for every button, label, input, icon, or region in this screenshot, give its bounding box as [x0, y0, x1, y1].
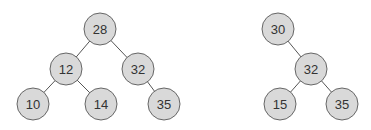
node-label: 14	[94, 97, 108, 112]
tree-node: 12	[50, 53, 82, 85]
node-label: 35	[335, 97, 349, 112]
node-label: 32	[304, 62, 318, 77]
node-label: 30	[271, 22, 285, 37]
node-label: 32	[131, 62, 145, 77]
tree-node: 28	[84, 13, 116, 45]
node-label: 28	[93, 22, 107, 37]
binary-tree-diagram: 28123210143530321535	[0, 0, 371, 130]
node-label: 12	[59, 62, 73, 77]
nodes: 28123210143530321535	[17, 13, 358, 120]
tree-node: 32	[122, 53, 154, 85]
node-label: 10	[26, 97, 40, 112]
tree-node: 14	[85, 88, 117, 120]
tree-node: 35	[148, 88, 180, 120]
node-label: 35	[157, 97, 171, 112]
tree-node: 30	[262, 13, 294, 45]
node-label: 15	[273, 97, 287, 112]
tree-node: 35	[326, 88, 358, 120]
tree-node: 15	[264, 88, 296, 120]
tree-node: 10	[17, 88, 49, 120]
tree-node: 32	[295, 53, 327, 85]
